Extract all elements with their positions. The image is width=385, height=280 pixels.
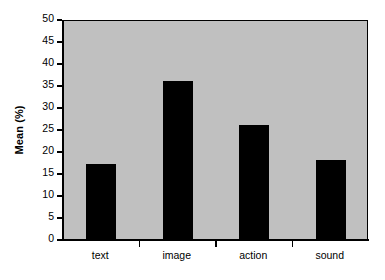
x-axis-label: sound xyxy=(315,249,344,262)
y-axis-tick-label: 30 xyxy=(42,101,54,112)
bars-layer xyxy=(63,21,367,239)
x-axis-label: text xyxy=(92,249,109,262)
y-axis-tick-label: 35 xyxy=(42,79,54,90)
x-axis-tick-mark xyxy=(139,241,141,247)
bar xyxy=(163,81,193,239)
bar xyxy=(86,164,116,239)
y-axis-tick-label: 50 xyxy=(42,13,54,24)
bar xyxy=(316,160,346,239)
x-axis-tick-mark xyxy=(292,241,294,247)
y-axis-tick-label: 25 xyxy=(42,123,54,134)
x-axis-label: image xyxy=(162,249,191,262)
y-axis-tick-label: 20 xyxy=(42,145,54,156)
plot-area xyxy=(62,20,368,240)
x-axis-label: action xyxy=(239,249,267,262)
y-axis-tick-label: 40 xyxy=(42,57,54,68)
y-axis-tick-label: 10 xyxy=(42,189,54,200)
bar-chart-figure: Mean (%) 05101520253035404550 textimagea… xyxy=(0,0,385,280)
y-axis-tick-label: 5 xyxy=(48,211,54,222)
x-axis-labels: textimageactionsound xyxy=(0,249,385,265)
bar xyxy=(239,125,269,239)
x-axis-ticks xyxy=(0,241,385,249)
y-axis-ticks: 05101520253035404550 xyxy=(0,0,62,280)
y-axis-tick-label: 45 xyxy=(42,35,54,46)
x-axis-tick-mark xyxy=(215,241,217,247)
y-axis-line xyxy=(62,20,64,241)
y-axis-tick-label: 15 xyxy=(42,167,54,178)
